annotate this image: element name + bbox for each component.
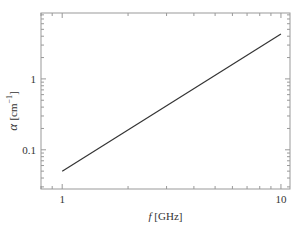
data-line	[62, 34, 281, 171]
x-tick-label: 1	[59, 193, 65, 205]
y-tick-label: 0.1	[22, 144, 36, 156]
plot-frame	[41, 13, 290, 189]
x-axis-label: f [GHz]	[149, 210, 183, 222]
x-tick-label: 10	[275, 193, 287, 205]
y-axis-label: α [cm−1]	[5, 91, 20, 130]
y-tick-label: 1	[31, 73, 37, 85]
chart: 1100.11f [GHz]α [cm−1]	[0, 0, 303, 225]
